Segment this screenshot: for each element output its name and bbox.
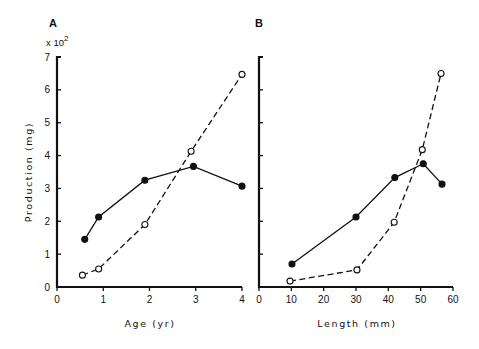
x-tick-label: 10 bbox=[286, 294, 298, 305]
open-point bbox=[354, 267, 360, 273]
x-tick-label: 2 bbox=[147, 294, 153, 305]
open-point bbox=[239, 71, 245, 77]
filled-point bbox=[439, 181, 445, 187]
axes-B bbox=[259, 57, 453, 287]
filled-point bbox=[96, 214, 102, 220]
y-tick-label: 7 bbox=[44, 52, 50, 63]
x-tick-label: 0 bbox=[256, 294, 262, 305]
open-point bbox=[142, 222, 148, 228]
x-axis-title-b: Length (mm) bbox=[317, 318, 396, 329]
filled-point bbox=[142, 177, 148, 183]
filled-point bbox=[190, 163, 196, 169]
y-multiplier: x 102 bbox=[46, 34, 69, 48]
open-point bbox=[419, 147, 425, 153]
open-point bbox=[391, 219, 397, 225]
panel-label-b: B bbox=[255, 17, 263, 29]
filled-point bbox=[239, 183, 245, 189]
series-line-open-dashed bbox=[290, 73, 441, 281]
x-tick-label: 30 bbox=[350, 294, 362, 305]
x-tick-label: 50 bbox=[415, 294, 427, 305]
open-point bbox=[287, 278, 293, 284]
x-tick-label: 3 bbox=[193, 294, 199, 305]
y-axis-title: Production (mg) bbox=[23, 122, 34, 222]
x-tick-label: 1 bbox=[100, 294, 106, 305]
panel-label-a: A bbox=[49, 17, 57, 29]
series-line-filled-solid bbox=[292, 164, 442, 264]
y-tick-label: 5 bbox=[44, 117, 50, 128]
filled-point bbox=[353, 214, 359, 220]
panel-b-plot: 0102030405060 bbox=[256, 57, 459, 305]
y-tick-label: 6 bbox=[44, 84, 50, 95]
open-point bbox=[96, 266, 102, 272]
x-axis-title-a: Age (yr) bbox=[124, 318, 175, 329]
chart-figure: A B x 102 Production (mg) Age (yr) Lengt… bbox=[0, 0, 479, 349]
x-tick-label: 0 bbox=[54, 294, 60, 305]
filled-point bbox=[392, 175, 398, 181]
axes-A bbox=[57, 57, 242, 287]
filled-point bbox=[420, 161, 426, 167]
filled-point bbox=[82, 236, 88, 242]
x-tick-label: 4 bbox=[239, 294, 245, 305]
open-point bbox=[188, 148, 194, 154]
y-tick-label: 2 bbox=[44, 216, 50, 227]
x-tick-label: 20 bbox=[318, 294, 330, 305]
open-point bbox=[438, 70, 444, 76]
filled-point bbox=[289, 261, 295, 267]
series-line-filled-solid bbox=[85, 166, 242, 239]
open-point bbox=[79, 272, 85, 278]
y-tick-label: 1 bbox=[44, 249, 50, 260]
x-tick-label: 60 bbox=[447, 294, 459, 305]
y-tick-label: 4 bbox=[44, 150, 50, 161]
y-tick-label: 0 bbox=[44, 282, 50, 293]
y-tick-label: 3 bbox=[44, 183, 50, 194]
x-tick-label: 40 bbox=[383, 294, 395, 305]
panel-a-plot: 0123456701234 bbox=[44, 52, 245, 306]
